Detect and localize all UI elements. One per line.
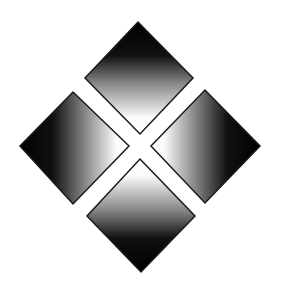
right-diamond bbox=[151, 90, 260, 203]
diamond-logo bbox=[0, 0, 287, 295]
left-diamond bbox=[20, 92, 129, 204]
top-diamond bbox=[85, 22, 193, 134]
